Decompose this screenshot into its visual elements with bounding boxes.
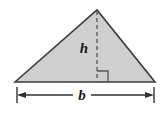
triangle-area-figure: h b bbox=[0, 0, 166, 114]
height-label: h bbox=[80, 40, 88, 56]
dimension-arrowhead-left-icon bbox=[17, 92, 26, 98]
base-label: b bbox=[78, 87, 86, 103]
geometry-diagram-canvas: h b bbox=[0, 0, 166, 114]
dimension-arrowhead-right-icon bbox=[145, 92, 154, 98]
